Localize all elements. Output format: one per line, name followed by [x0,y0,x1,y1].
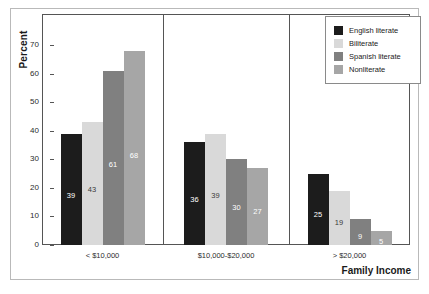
legend-item-label: Nonliterate [349,65,385,74]
x-axis-group-label: > $20,000 [289,251,410,260]
bar-value-label: 39 [61,192,82,200]
y-tick-label: 20 [17,184,39,192]
legend-item-label: Biliterate [349,39,378,48]
legend-swatch-icon [334,65,343,74]
y-tick-label: 70 [17,41,39,49]
bar-value-label: 36 [184,196,205,204]
bar-value-label: 5 [371,238,392,246]
x-axis-title: Family Income [342,265,411,276]
bar[interactable]: 36 [184,142,205,245]
y-tick-label: 50 [17,98,39,106]
x-axis-group-label: < $10,000 [42,251,163,260]
legend-item-label: Spanish literate [349,52,401,61]
bar[interactable]: 68 [124,51,145,245]
y-tick-label: 30 [17,155,39,163]
y-tick-label: 60 [17,70,39,78]
bar[interactable]: 61 [103,71,124,245]
bar-value-label: 27 [247,208,268,216]
bar-value-label: 68 [124,152,145,160]
bar[interactable]: 25 [308,174,329,245]
y-tick-label: 10 [17,212,39,220]
bar-value-label: 19 [329,219,350,227]
bar[interactable]: 5 [371,231,392,245]
legend-item[interactable]: Biliterate [334,37,416,50]
bar[interactable]: 27 [247,168,268,245]
legend-item-label: English literate [349,26,398,35]
bar-value-label: 30 [226,204,247,212]
legend-swatch-icon [334,26,343,35]
legend-item[interactable]: English literate [334,24,416,37]
bar[interactable]: 30 [226,159,247,245]
bar[interactable]: 43 [82,122,103,245]
y-tick-label: 0 [17,241,39,249]
chart-figure: Percent 706050403020100 3943616836393027… [0,0,429,294]
legend-item[interactable]: Nonliterate [334,63,416,76]
bar-value-label: 25 [308,211,329,219]
bar[interactable]: 39 [205,134,226,245]
chart-legend: English literateBiliterateSpanish litera… [325,16,421,84]
y-tick-label: 40 [17,127,39,135]
legend-swatch-icon [334,39,343,48]
bar[interactable]: 39 [61,134,82,245]
bar-value-label: 43 [82,186,103,194]
legend-item[interactable]: Spanish literate [334,50,416,63]
bar[interactable]: 9 [350,219,371,245]
x-axis-group-label: $10,000-$20,000 [163,251,289,260]
y-axis-ticks: 706050403020100 [12,0,39,294]
bar-value-label: 61 [103,161,124,169]
bar-value-label: 39 [205,192,226,200]
bar[interactable]: 19 [329,191,350,245]
legend-swatch-icon [334,52,343,61]
y-tick-mark [50,245,54,246]
bar-value-label: 9 [350,233,371,241]
